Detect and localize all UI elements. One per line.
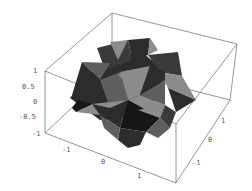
y-axis-ticks: 1 0 -1: [192, 117, 225, 167]
y-tick: -1: [192, 159, 200, 167]
x-axis-ticks: -1 0 1: [62, 146, 141, 180]
x-tick: 1: [137, 172, 141, 180]
y-tick: 1: [221, 117, 225, 125]
z-tick: 0.5: [22, 83, 35, 91]
y-tick: 0: [208, 136, 212, 144]
z-tick: -1: [32, 130, 40, 138]
x-tick: 0: [101, 158, 105, 166]
z-tick: 1: [33, 67, 37, 75]
x-tick: -1: [62, 146, 70, 154]
z-tick: -0.5: [19, 113, 36, 121]
polyhedron: [70, 38, 196, 148]
z-axis-ticks: 1 0.5 0 -0.5 -1: [19, 67, 40, 138]
polyhedron-3d-plot: 1 0.5 0 -0.5 -1 -1 0 1 1 0 -1: [0, 0, 252, 191]
z-tick: 0: [33, 98, 37, 106]
